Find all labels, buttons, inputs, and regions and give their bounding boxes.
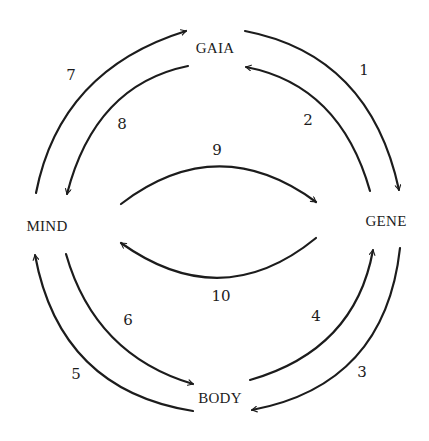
arrow-5-body-to-mind bbox=[35, 255, 193, 411]
edge-label-8: 8 bbox=[117, 115, 127, 133]
edge-label-4: 4 bbox=[311, 307, 321, 325]
edge-label-6: 6 bbox=[123, 311, 133, 329]
node-body: BODY bbox=[198, 390, 242, 407]
arrow-10-gene-to-mind bbox=[121, 238, 316, 278]
cycle-diagram: GAIA MIND GENE BODY 1 2 3 4 5 6 7 8 9 10 bbox=[0, 0, 429, 441]
edge-label-9: 9 bbox=[212, 141, 222, 159]
edge-label-10: 10 bbox=[211, 287, 230, 305]
edge-label-5: 5 bbox=[71, 365, 81, 383]
edge-label-3: 3 bbox=[357, 363, 367, 381]
arrow-1-gaia-to-gene bbox=[245, 31, 399, 190]
node-gene: GENE bbox=[365, 213, 406, 230]
arrow-9-mind-to-gene bbox=[121, 166, 316, 204]
node-gaia: GAIA bbox=[196, 40, 235, 57]
edge-label-1: 1 bbox=[359, 61, 369, 79]
arrow-2-gene-to-gaia bbox=[246, 67, 370, 191]
edge-label-7: 7 bbox=[66, 66, 76, 84]
arrow-8-gaia-to-mind bbox=[67, 66, 188, 194]
node-mind: MIND bbox=[26, 218, 67, 235]
edge-label-2: 2 bbox=[303, 111, 313, 129]
arrow-3-gene-to-body bbox=[252, 248, 400, 410]
arrow-7-mind-to-gaia bbox=[36, 31, 186, 193]
